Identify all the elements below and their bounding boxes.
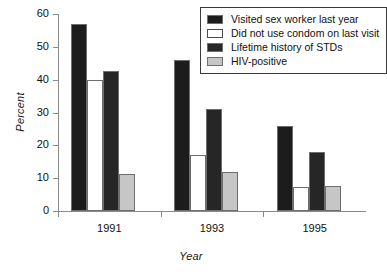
bar-1993-series-2: [206, 109, 222, 211]
bar-1991-series-3: [119, 174, 135, 211]
bar-1993-series-0: [174, 60, 190, 211]
legend-label: Did not use condom on last visit: [231, 27, 379, 39]
bar-1991-series-0: [71, 24, 87, 211]
legend-item-3: HIV-positive: [207, 54, 379, 68]
y-tick-label: 10: [37, 171, 49, 183]
chart-legend: Visited sex worker last yearDid not use …: [200, 7, 387, 74]
y-tick-label: 20: [37, 138, 49, 150]
legend-label: Lifetime history of STDs: [231, 41, 342, 53]
x-axis-line: [58, 211, 366, 212]
y-tick-label: 40: [37, 73, 49, 85]
x-axis-title: Year: [0, 250, 382, 262]
legend-swatch-icon: [207, 43, 223, 52]
bar-1991-series-1: [87, 80, 103, 211]
legend-item-0: Visited sex worker last year: [207, 12, 379, 26]
x-tick: [161, 211, 162, 217]
x-tick: [263, 211, 264, 217]
legend-label: HIV-positive: [231, 55, 287, 67]
x-category-label-1995: 1995: [263, 222, 366, 234]
y-axis-title: Percent: [14, 72, 26, 152]
y-tick-label: 50: [37, 40, 49, 52]
x-category-label-1993: 1993: [161, 222, 264, 234]
bar-1995-series-2: [309, 152, 325, 211]
legend-item-2: Lifetime history of STDs: [207, 40, 379, 54]
bar-1995-series-1: [293, 187, 309, 211]
legend-swatch-icon: [207, 29, 223, 38]
legend-swatch-icon: [207, 57, 223, 66]
legend-item-1: Did not use condom on last visit: [207, 26, 379, 40]
legend-label: Visited sex worker last year: [231, 13, 359, 25]
y-tick-label: 60: [37, 7, 49, 19]
bar-1991-series-2: [103, 71, 119, 211]
bar-1995-series-0: [277, 126, 293, 211]
legend-swatch-icon: [207, 15, 223, 24]
x-tick: [58, 211, 59, 217]
bar-1993-series-3: [222, 172, 238, 211]
x-category-label-1991: 1991: [58, 222, 161, 234]
y-tick-label: 0: [43, 204, 49, 216]
y-tick-label: 30: [37, 106, 49, 118]
bar-1993-series-1: [190, 155, 206, 211]
bar-1995-series-3: [325, 186, 341, 211]
